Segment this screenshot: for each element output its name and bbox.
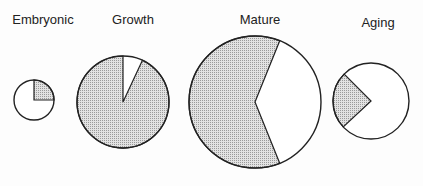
pie-growth: Growth [77, 12, 169, 148]
pie-label: Embryonic [12, 12, 74, 27]
pie-aging: Aging [333, 15, 409, 139]
pie-label: Growth [112, 12, 154, 27]
pie-label: Mature [240, 12, 280, 27]
pie-label: Aging [361, 15, 394, 30]
lifecycle-pie-charts: EmbryonicGrowthMatureAging [0, 0, 423, 186]
pie-mature: Mature [189, 12, 321, 168]
pie-embryonic: Embryonic [12, 12, 74, 120]
